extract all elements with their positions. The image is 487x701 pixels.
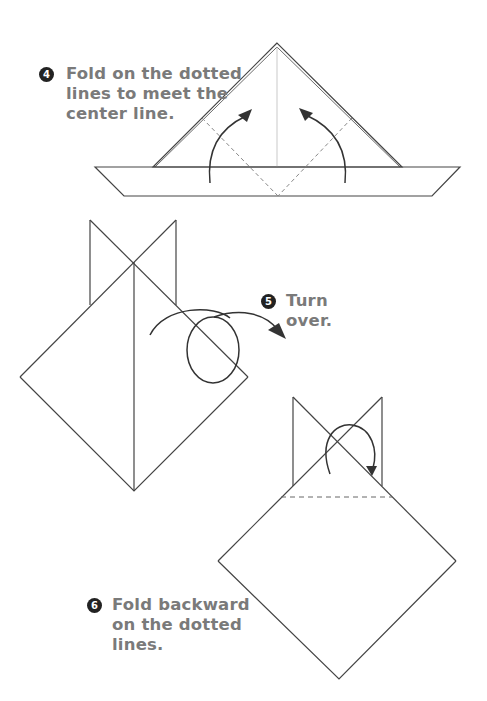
- step-4-line-2: lines to meet the: [66, 84, 242, 104]
- step-5-line-2: over.: [286, 311, 332, 331]
- turn-over-arrow-tail: [214, 313, 278, 330]
- turn-over-loop: [187, 317, 239, 383]
- step-4-instruction: Fold on the dotted lines to meet the cen…: [66, 64, 242, 124]
- fold-backward-arrowhead-icon: [366, 466, 377, 476]
- fold-arrow-left: [209, 116, 246, 183]
- ear-diagonal-left: [293, 397, 456, 561]
- diamond-lower: [218, 561, 456, 679]
- dotted-fold-line-left: [202, 118, 278, 196]
- step-5-instruction: Turn over.: [286, 291, 332, 331]
- ear-diagonal-right: [20, 220, 176, 377]
- step-4-line-1: Fold on the dotted: [66, 64, 242, 84]
- ear-diagonal-left: [90, 220, 248, 377]
- step-6-instruction: Fold backward on the dotted lines.: [112, 595, 250, 655]
- turn-over-arrowhead-icon: [268, 323, 286, 339]
- hat-brim: [95, 167, 460, 196]
- step-5-figure: [20, 220, 286, 491]
- step-6-line-1: Fold backward: [112, 595, 250, 615]
- dotted-fold-line-right: [278, 118, 352, 196]
- step-6-line-2: on the dotted: [112, 615, 250, 635]
- step-5-badge: 5: [261, 294, 276, 309]
- step-5-line-1: Turn: [286, 291, 332, 311]
- step-6-figure: [218, 397, 456, 679]
- arrowhead-right-icon: [299, 108, 313, 121]
- step-4-line-3: center line.: [66, 104, 242, 124]
- step-6-badge: 6: [87, 598, 102, 613]
- turn-over-arrow: [150, 310, 230, 335]
- ear-diagonal-right: [218, 397, 382, 561]
- step-4-badge: 4: [39, 67, 54, 82]
- fold-arrow-right: [306, 115, 346, 183]
- step-6-line-3: lines.: [112, 635, 250, 655]
